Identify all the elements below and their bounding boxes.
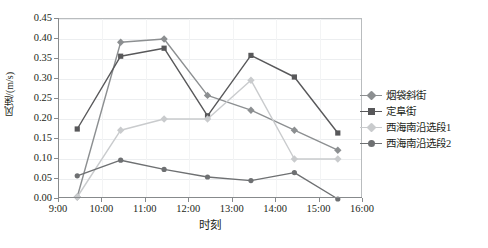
x-axis-title: 时刻 (58, 219, 362, 232)
y-axis-tick (54, 118, 59, 119)
wind-speed-line-chart: 风速/(m/s) 0.000.050.100.150.200.250.300.3… (0, 0, 488, 248)
x-axis-tick (58, 198, 59, 202)
x-axis-tick-label: 16:00 (335, 203, 389, 214)
data-point-marker (117, 39, 124, 46)
legend-item-2: 定阜街 (360, 104, 486, 119)
series-4 (75, 158, 341, 202)
y-axis-tick (54, 98, 59, 99)
legend-marker-icon (360, 123, 382, 133)
data-point-marker (247, 107, 254, 114)
legend-marker-icon (360, 139, 382, 149)
data-point-marker (248, 178, 253, 183)
data-point-marker (118, 54, 123, 59)
y-axis-tick (54, 18, 59, 19)
legend: 烟袋斜街定阜街西海南沿选段1西海南沿选段2 (360, 88, 486, 152)
x-axis-tick (319, 198, 320, 202)
y-axis-tick-label: 0.35 (0, 53, 52, 63)
x-axis-tick (145, 198, 146, 202)
y-axis-tick (54, 178, 59, 179)
series-lines (59, 19, 363, 199)
y-axis-tick-label: 0.20 (0, 113, 52, 123)
legend-item-3: 西海南沿选段1 (360, 120, 486, 135)
data-point-marker (292, 170, 297, 175)
data-point-marker (162, 167, 167, 172)
x-axis-line (58, 197, 362, 198)
data-point-marker (292, 74, 297, 79)
data-point-marker (162, 46, 167, 51)
y-axis-tick (54, 78, 59, 79)
legend-marker-icon (360, 107, 382, 117)
y-axis-tick-label: 0.15 (0, 133, 52, 143)
legend-item-4: 西海南沿选段2 (360, 136, 486, 151)
legend-item-label: 西海南沿选段1 (386, 122, 451, 133)
data-point-marker (291, 127, 298, 134)
y-axis-line (58, 18, 59, 198)
y-axis-tick (54, 138, 59, 139)
x-axis-tick (275, 198, 276, 202)
data-point-marker (335, 130, 340, 135)
y-axis-tick-label: 0.05 (0, 173, 52, 183)
legend-item-1: 烟袋斜街 (360, 88, 486, 103)
x-axis-tick (188, 198, 189, 202)
y-axis-tick-label: 0.00 (0, 193, 52, 203)
plot-area (58, 18, 362, 198)
x-axis-tick (101, 198, 102, 202)
y-axis-tick (54, 38, 59, 39)
y-axis-tick-label: 0.45 (0, 13, 52, 23)
data-point-marker (160, 115, 167, 122)
legend-item-label: 西海南沿选段2 (386, 138, 451, 149)
y-axis-tick (54, 58, 59, 59)
x-axis-tick (362, 198, 363, 202)
y-axis-tick-label: 0.40 (0, 33, 52, 43)
legend-item-label: 烟袋斜街 (386, 90, 426, 101)
data-point-marker (248, 53, 253, 58)
data-point-marker (75, 173, 80, 178)
data-point-marker (117, 127, 124, 134)
data-point-marker (118, 158, 123, 163)
data-point-marker (334, 155, 341, 162)
x-axis-tick (232, 198, 233, 202)
y-axis-tick (54, 158, 59, 159)
legend-item-label: 定阜街 (386, 106, 416, 117)
data-point-marker (291, 155, 298, 162)
y-axis-tick-label: 0.10 (0, 153, 52, 163)
data-point-marker (334, 147, 341, 154)
legend-marker-icon (360, 91, 382, 101)
y-axis-tick-label: 0.30 (0, 73, 52, 83)
series-line (77, 160, 338, 199)
data-point-marker (75, 126, 80, 131)
data-point-marker (205, 174, 210, 179)
y-axis-tick-label: 0.25 (0, 93, 52, 103)
